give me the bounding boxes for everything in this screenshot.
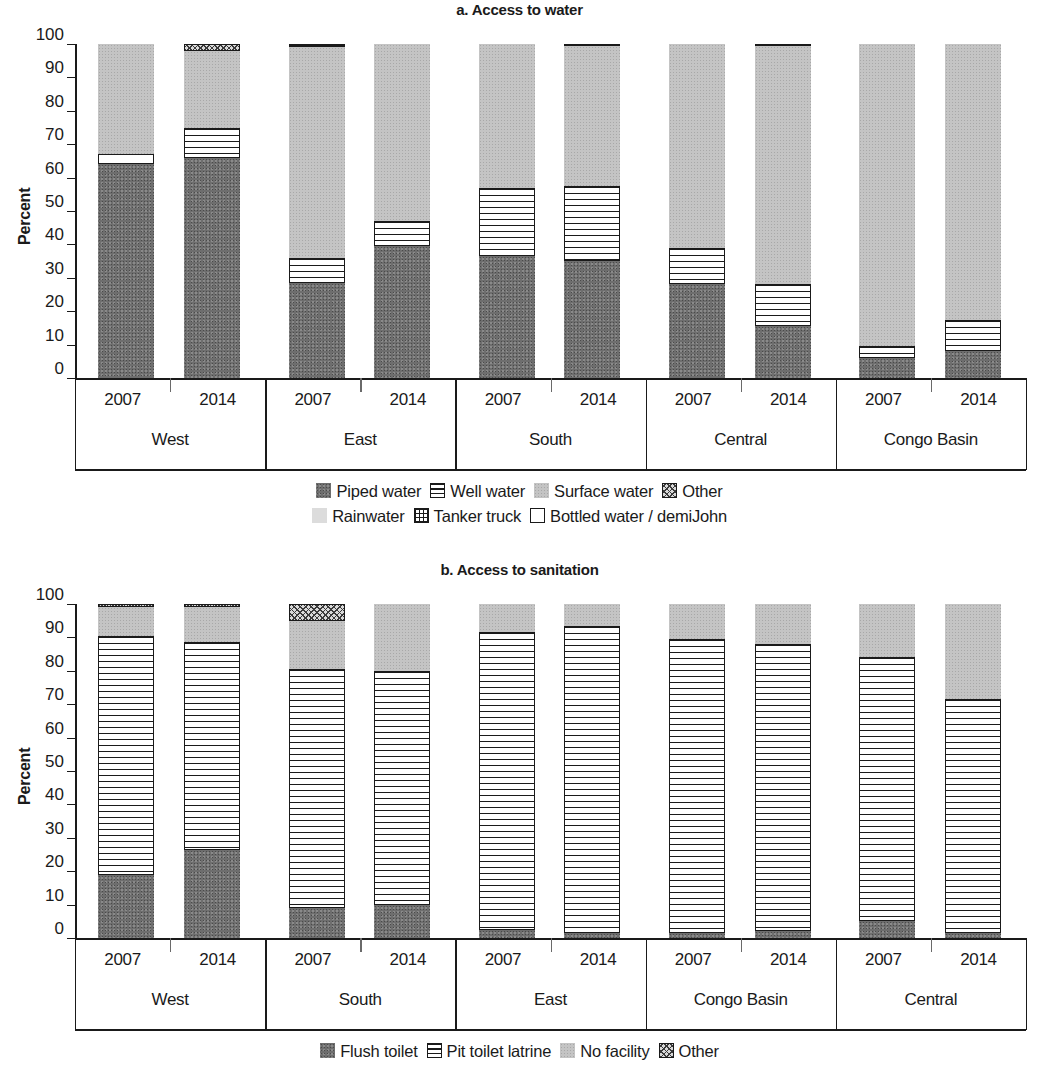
legend-item: Piped water xyxy=(316,479,421,503)
legend-label: Bottled water / demiJohn xyxy=(550,504,727,528)
bar-segment xyxy=(564,186,620,260)
bar-segment xyxy=(184,607,240,642)
stacked-bar xyxy=(669,44,725,378)
x-axis-region-label: South xyxy=(265,990,455,1010)
bar-segment xyxy=(479,604,535,632)
chart-panel-access-to-water: a. Access to water Percent10090807060504… xyxy=(0,0,1039,545)
legend-swatch-icon xyxy=(316,483,331,498)
x-axis-year-label: 2007 xyxy=(455,390,550,410)
x-axis-year-label: 2014 xyxy=(170,390,265,410)
x-axis-year-label: 2014 xyxy=(170,950,265,970)
bar-segment xyxy=(289,47,345,257)
stacked-bar xyxy=(374,44,430,378)
x-axis-year-label: 2014 xyxy=(931,390,1026,410)
stacked-bar xyxy=(289,44,345,378)
bar-segment xyxy=(755,931,811,938)
bar-segment xyxy=(669,248,725,285)
legend-label: Piped water xyxy=(336,479,421,503)
legend-swatch-icon xyxy=(312,508,327,523)
legend-row: Flush toiletPit toilet latrineNo facilit… xyxy=(0,1038,1039,1063)
bar-segment xyxy=(669,44,725,248)
stacked-bar xyxy=(98,44,154,378)
stacked-bar xyxy=(374,604,430,938)
legend-swatch-icon xyxy=(534,483,549,498)
stacked-bar xyxy=(755,44,811,378)
legend-label: Flush toilet xyxy=(340,1039,417,1063)
bar-segment xyxy=(374,905,430,938)
x-axis-region-label: Congo Basin xyxy=(646,990,836,1010)
bar-segment xyxy=(374,44,430,221)
legend-item: Surface water xyxy=(534,479,653,503)
legend-item: Pit toilet latrine xyxy=(427,1039,552,1063)
legend-swatch-icon xyxy=(659,1043,674,1058)
bar-segment xyxy=(289,621,345,669)
legend-item: Well water xyxy=(430,479,525,503)
bar-segment xyxy=(479,44,535,188)
bar-segment xyxy=(374,221,430,246)
bar-segment xyxy=(289,604,345,621)
x-axis-group-labels: 20072014West20072014South20072014East200… xyxy=(0,938,1039,1030)
bar-segment xyxy=(184,158,240,378)
x-axis-year-label: 2007 xyxy=(265,390,360,410)
bar-segment xyxy=(289,669,345,908)
bar-segment xyxy=(669,284,725,378)
stacked-bar xyxy=(98,604,154,938)
x-axis-year-label: 2014 xyxy=(551,950,646,970)
legend-swatch-icon xyxy=(662,483,677,498)
legend-item: Tanker truck xyxy=(414,504,521,528)
bar-segment xyxy=(669,639,725,933)
legend-label: Surface water xyxy=(554,479,653,503)
legend-row: RainwaterTanker truckBottled water / dem… xyxy=(0,503,1039,528)
bar-segment xyxy=(945,320,1001,352)
bar-segment xyxy=(755,284,811,326)
x-axis-year-label: 2014 xyxy=(360,390,455,410)
bar-segment xyxy=(669,604,725,639)
legend-item: Bottled water / demiJohn xyxy=(530,504,727,528)
panel-a-title: a. Access to water xyxy=(0,0,1039,20)
bar-segment xyxy=(289,283,345,378)
bar-segment xyxy=(859,44,915,346)
legend-item: Rainwater xyxy=(312,504,404,528)
x-axis-year-label: 2007 xyxy=(836,390,931,410)
x-axis-region-label: Central xyxy=(646,430,836,450)
legend-swatch-icon xyxy=(414,508,429,523)
x-axis-year-label: 2014 xyxy=(931,950,1026,970)
bar-segment xyxy=(184,51,240,128)
legend-label: Other xyxy=(682,479,722,503)
x-axis-year-label: 2014 xyxy=(741,390,836,410)
legend-item: Other xyxy=(659,1039,719,1063)
legend-label: Rainwater xyxy=(332,504,404,528)
bar-segment xyxy=(564,46,620,187)
bar-segment xyxy=(859,921,915,938)
bar-segment xyxy=(945,604,1001,699)
bar-segment xyxy=(859,604,915,657)
legend-row: Piped waterWell waterSurface waterOther xyxy=(0,478,1039,503)
bar-segment xyxy=(184,44,240,51)
bar-segment xyxy=(184,128,240,158)
x-axis-region-label: Central xyxy=(836,990,1026,1010)
stacked-bar xyxy=(945,604,1001,938)
legend-label: Well water xyxy=(450,479,525,503)
bar-segment xyxy=(289,908,345,938)
bar-series-container xyxy=(0,580,1039,938)
group-divider xyxy=(1026,378,1027,470)
bar-segment xyxy=(859,358,915,378)
bar-segment xyxy=(755,46,811,285)
stacked-bar xyxy=(289,604,345,938)
bar-segment xyxy=(859,657,915,921)
x-axis-region-label: West xyxy=(75,990,265,1010)
legend-item: No facility xyxy=(560,1039,649,1063)
bar-segment xyxy=(945,44,1001,320)
x-axis-bottom-border xyxy=(75,1029,1026,1031)
bar-segment xyxy=(98,154,154,164)
bar-segment xyxy=(564,626,620,933)
x-axis-year-label: 2007 xyxy=(265,950,360,970)
stacked-bar xyxy=(564,44,620,378)
legend-swatch-icon xyxy=(430,483,445,498)
x-axis-year-label: 2007 xyxy=(836,950,931,970)
bar-series-container xyxy=(0,20,1039,378)
bar-segment xyxy=(945,351,1001,378)
panel-a-legend: Piped waterWell waterSurface waterOtherR… xyxy=(0,478,1039,528)
bar-segment xyxy=(98,607,154,635)
legend-swatch-icon xyxy=(320,1043,335,1058)
